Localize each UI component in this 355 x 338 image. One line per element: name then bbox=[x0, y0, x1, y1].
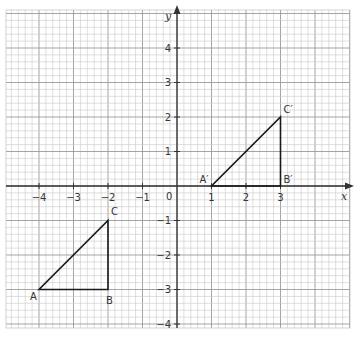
y-tick-label: 3 bbox=[165, 77, 171, 88]
y-tick-label: −3 bbox=[156, 284, 171, 295]
vertex-label: B bbox=[106, 295, 113, 306]
x-tick-label: 3 bbox=[277, 192, 283, 203]
vertex-label: A bbox=[30, 291, 37, 302]
y-tick-label: −4 bbox=[156, 319, 171, 330]
y-tick-label: −2 bbox=[156, 250, 171, 261]
x-axis-label: x bbox=[341, 190, 348, 203]
x-tick-label: −1 bbox=[135, 192, 150, 203]
triangles: ABCA′B′C′ bbox=[30, 104, 293, 306]
y-tick-label: −1 bbox=[156, 215, 171, 226]
axes bbox=[6, 5, 354, 328]
x-tick-label: 2 bbox=[243, 192, 249, 203]
vertex-label: A′ bbox=[200, 174, 210, 185]
y-tick-label: 1 bbox=[165, 146, 171, 157]
x-tick-label: 1 bbox=[208, 192, 214, 203]
y-tick-label: 2 bbox=[165, 112, 171, 123]
vertex-label: C bbox=[111, 206, 118, 217]
grid-lines bbox=[6, 10, 350, 328]
coordinate-grid: −4−3−2−11234321−1−2−3−4 ABCA′B′C′ x y 0 bbox=[0, 0, 355, 338]
y-axis-arrow-icon bbox=[174, 5, 181, 14]
y-tick-label: 4 bbox=[165, 43, 171, 54]
origin-label: 0 bbox=[166, 191, 172, 202]
grid-border bbox=[6, 10, 350, 328]
x-tick-label: −4 bbox=[32, 192, 47, 203]
y-axis-label: y bbox=[164, 10, 172, 23]
x-tick-label: −2 bbox=[101, 192, 116, 203]
x-tick-label: −3 bbox=[66, 192, 81, 203]
vertex-label: B′ bbox=[284, 174, 294, 185]
vertex-label: C′ bbox=[284, 104, 294, 115]
